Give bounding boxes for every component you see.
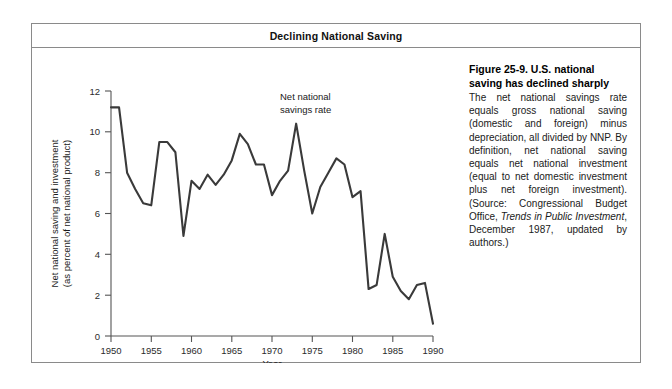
x-tick-label-1985: 1985 [382,345,403,356]
caption-body: The net national savings rate equals gro… [469,91,627,249]
caption-panel: Figure 25-9. U.S. national saving has de… [469,63,627,249]
y-tick-label-2: 2 [95,290,100,301]
x-tick-label-1965: 1965 [221,345,242,356]
y-tick-label-10: 10 [89,126,100,137]
x-axis-title: Year [262,358,281,364]
y-axis-title-line1: Net national saving and investment [49,139,60,287]
y-tick-label-4: 4 [95,249,100,260]
annotation-line-1: Net national [280,91,331,102]
x-tick-label-1960: 1960 [181,345,202,356]
x-tick-label-1970: 1970 [261,345,282,356]
y-tick-label-0: 0 [95,331,100,342]
x-tick-label-1980: 1980 [342,345,363,356]
y-tick-label-12: 12 [89,86,100,97]
x-tick-label-1990: 1990 [422,345,443,356]
caption-body-part1: The net national savings rate equals gro… [469,92,627,222]
x-tick-label-1975: 1975 [302,345,323,356]
page-title: Declining National Saving [270,30,403,42]
data-series-line [111,107,433,323]
series-annotation: Net national savings rate [280,91,331,115]
x-tick-label-1955: 1955 [141,345,162,356]
y-axis-ticks [105,91,111,336]
figure-container: Declining National Saving 12 10 8 [31,23,641,363]
x-axis-labels: 1950 1955 1960 1965 1970 1975 1980 1985 … [100,345,443,356]
figure-title-bar: Declining National Saving [32,24,640,48]
y-axis-labels: 12 10 8 6 4 2 0 [89,86,100,342]
x-axis-ticks [111,336,433,342]
y-tick-label-6: 6 [95,208,100,219]
caption-source-title: Trends in Public Investment [501,211,624,222]
x-tick-label-1950: 1950 [100,345,121,356]
y-axis-title-line2: (as percent of net national product) [61,140,72,287]
line-chart-svg: 12 10 8 6 4 2 0 195 [32,48,462,363]
caption-heading: Figure 25-9. U.S. national saving has de… [469,63,627,90]
chart-plot-area: 12 10 8 6 4 2 0 195 [32,48,462,363]
y-tick-label-8: 8 [95,167,100,178]
annotation-line-2: savings rate [280,104,331,115]
